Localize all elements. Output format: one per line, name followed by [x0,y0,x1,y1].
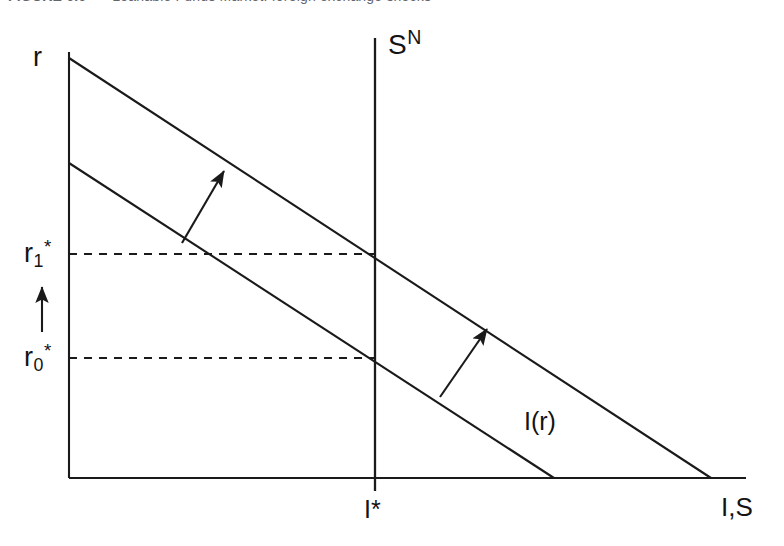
label-r1-star: r1* [24,238,51,271]
label-r1-superscript: * [43,236,51,257]
label-sn-base: S [388,29,407,60]
label-sn-superscript: N [407,26,422,48]
figure-page: FIGURE 6.6Loanable Funds Market: foreign… [0,0,784,546]
label-r0-superscript: * [43,340,51,361]
x-axis-label: I,S [721,494,753,520]
label-r0-star: r0* [24,342,51,375]
label-r0-subscript: 0 [33,355,43,375]
label-r1-base: r [24,238,33,268]
label-i-star: I* [364,497,381,522]
label-r1-subscript: 1 [33,251,43,271]
y-axis-label: r [33,44,42,71]
investment-curve-initial [69,163,554,478]
loanable-funds-diagram [0,0,784,546]
label-saving-curve: SN [388,28,421,59]
label-investment-curve: I(r) [524,409,556,434]
shift-arrow-upper [182,171,224,243]
shift-arrow-lower [440,329,487,397]
investment-curve-shifted [69,58,711,478]
label-r0-base: r [24,342,33,372]
